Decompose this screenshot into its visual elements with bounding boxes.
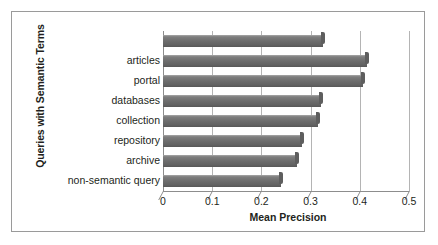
bar [163, 55, 367, 67]
bar-end-cap [361, 72, 365, 84]
bar [163, 115, 318, 127]
chart-container: Queries with Semantic Terms articlesport… [11, 11, 425, 232]
bar [163, 95, 321, 107]
bar-row [163, 131, 409, 151]
bar-end-cap [300, 132, 304, 144]
bar-row [163, 51, 409, 71]
bar-row [163, 171, 409, 191]
bar [163, 35, 323, 47]
bar-end-cap [321, 32, 325, 44]
bar-row [163, 31, 409, 51]
x-tick-label: 0.4 [340, 195, 380, 207]
bar-end-cap [365, 52, 369, 64]
category-label: repository [42, 135, 160, 146]
bar-end-cap [279, 172, 283, 184]
category-label: databases [42, 95, 160, 106]
bar-row [163, 91, 409, 111]
x-tick-label: 0 [143, 195, 183, 207]
plot-area [163, 31, 409, 191]
x-tick-label: 0.3 [291, 195, 331, 207]
category-label: non-semantic query [42, 175, 160, 186]
y-axis-category-labels: articlesportaldatabasescollectionreposit… [42, 31, 160, 191]
bar [163, 75, 363, 87]
category-label: archive [42, 155, 160, 166]
bar [163, 155, 297, 167]
bar-row [163, 71, 409, 91]
bar-row [163, 111, 409, 131]
bar [163, 175, 281, 187]
bar [163, 135, 302, 147]
bar-end-cap [295, 152, 299, 164]
category-label: collection [42, 115, 160, 126]
x-tick-label: 0.2 [241, 195, 281, 207]
x-axis-tick-labels: 00.10.20.30.40.5 [163, 195, 423, 211]
bar-end-cap [316, 112, 320, 124]
x-axis-line [163, 191, 409, 192]
gridline [409, 31, 410, 191]
x-axis-title: Mean Precision [163, 211, 413, 223]
x-tick-label: 0.5 [389, 195, 429, 207]
category-label: articles [42, 55, 160, 66]
bar-end-cap [319, 92, 323, 104]
bar-row [163, 151, 409, 171]
category-label: portal [42, 75, 160, 86]
x-tick-label: 0.1 [192, 195, 232, 207]
